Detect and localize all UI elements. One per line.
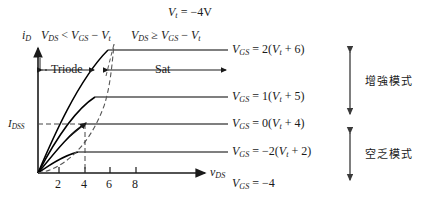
x-tick-6: 6 — [106, 178, 112, 190]
x-tick-8: 8 — [132, 178, 138, 190]
curve-label-vgs-1: VGS = 1(Vt + 5) — [232, 90, 304, 104]
curve-vgs-1 — [38, 97, 228, 173]
triode-region-label: Triode — [51, 63, 83, 75]
saturation-condition-label: VDS ≥ VGS − Vt — [131, 29, 201, 43]
y-axis-label: iD — [22, 29, 31, 43]
x-axis — [38, 167, 205, 173]
depletion-mode-label: 空乏模式 — [365, 149, 413, 160]
triode-condition-label: VDS < VGS − Vt — [41, 29, 111, 43]
x-axis-label: vDS — [210, 166, 225, 180]
figure-title: Vt = −4V — [168, 6, 212, 20]
idss-guide-lines — [38, 123, 86, 173]
curve-label-vgs-2: VGS = 2(Vt + 6) — [232, 43, 304, 57]
x-tick-4: 4 — [81, 178, 87, 190]
idss-label: IDSS — [8, 118, 25, 130]
sat-region-label: Sat — [155, 63, 170, 75]
curve-label-vgs-0: VGS = 0(Vt + 4) — [232, 117, 304, 131]
curve-label-vgs-minus2: VGS = −2(Vt + 2) — [232, 145, 311, 159]
curve-vgs-0 — [38, 124, 228, 173]
figure-root: Vt = −4V iD VDS < VGS − Vt VDS ≥ VGS − V… — [0, 0, 422, 207]
cutoff-label: VGS = −4 — [232, 177, 275, 191]
curve-vgs-minus2 — [38, 152, 228, 173]
enhancement-mode-label: 增強模式 — [365, 76, 413, 87]
x-tick-2: 2 — [55, 178, 61, 190]
